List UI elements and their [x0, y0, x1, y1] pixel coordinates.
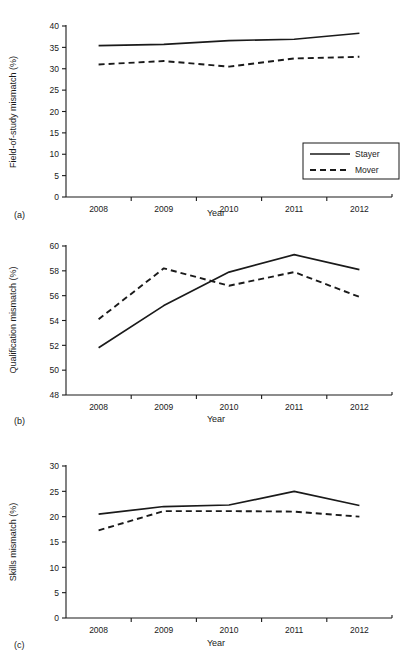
x-tick-label: 2012: [350, 625, 369, 635]
y-tick-label: 10: [50, 149, 60, 159]
y-tick-label: 25: [50, 85, 60, 95]
x-tick-label: 2010: [220, 625, 239, 635]
y-tick-label: 5: [54, 588, 59, 598]
panel-letter: (a): [14, 210, 25, 220]
x-tick-label: 2011: [285, 625, 304, 635]
y-tick-label: 15: [50, 537, 60, 547]
y-tick-label: 58: [50, 266, 60, 276]
y-tick-label: 10: [50, 563, 60, 573]
y-tick-label: 15: [50, 128, 60, 138]
y-tick-label: 25: [50, 487, 60, 497]
x-tick-label: 2010: [220, 402, 239, 412]
panel-letter: (b): [14, 416, 25, 426]
x-tick-label: 2009: [154, 625, 173, 635]
y-tick-label: 54: [50, 316, 60, 326]
y-tick-label: 56: [50, 291, 60, 301]
x-tick-label: 2011: [285, 402, 304, 412]
y-tick-label: 30: [50, 64, 60, 74]
x-tick-label: 2009: [154, 402, 173, 412]
x-tick-label: 2008: [89, 625, 108, 635]
series-line-stayer: [99, 33, 360, 45]
x-tick-label: 2012: [350, 402, 369, 412]
y-axis-title: Field-of-study mismatch (%): [8, 56, 18, 168]
x-tick-label: 2008: [89, 204, 108, 214]
y-tick-label: 52: [50, 341, 60, 351]
multi-panel-line-chart-figure: 051015202530354020082009201020112012Year…: [0, 0, 405, 672]
x-axis-title: Year: [207, 208, 225, 218]
chart-panel-b: 4850525456586020082009201020112012YearQu…: [0, 228, 405, 460]
x-axis-title: Year: [207, 638, 225, 648]
series-line-stayer: [99, 255, 360, 348]
x-tick-label: 2008: [89, 402, 108, 412]
y-tick-label: 50: [50, 365, 60, 375]
chart-panel-c: 05101520253020082009201020112012YearSkil…: [0, 460, 405, 672]
y-tick-label: 20: [50, 107, 60, 117]
panel-a-plot: 051015202530354020082009201020112012Year…: [0, 0, 405, 228]
chart-panel-a: 051015202530354020082009201020112012Year…: [0, 0, 405, 228]
panel-c-plot: 05101520253020082009201020112012YearSkil…: [0, 460, 405, 672]
y-tick-label: 48: [50, 390, 60, 400]
y-tick-label: 40: [50, 21, 60, 31]
panel-letter: (c): [14, 640, 25, 650]
y-tick-label: 0: [54, 192, 59, 202]
series-line-mover: [99, 57, 360, 67]
x-tick-label: 2012: [350, 204, 369, 214]
panel-b-plot: 4850525456586020082009201020112012YearQu…: [0, 228, 405, 460]
y-tick-label: 5: [54, 171, 59, 181]
y-axis-title: Qualification mismatch (%): [8, 266, 18, 373]
x-tick-label: 2011: [285, 204, 304, 214]
series-line-mover: [99, 511, 360, 530]
series-line-mover: [99, 268, 360, 319]
x-axis-title: Year: [207, 414, 225, 424]
legend-box: [303, 143, 399, 179]
x-tick-label: 2009: [154, 204, 173, 214]
y-tick-label: 20: [50, 512, 60, 522]
legend-label-stayer: Stayer: [355, 149, 380, 159]
y-tick-label: 35: [50, 43, 60, 53]
y-tick-label: 60: [50, 241, 60, 251]
legend-label-mover: Mover: [355, 165, 379, 175]
y-tick-label: 0: [54, 613, 59, 623]
y-axis-title: Skills mismatch (%): [8, 503, 18, 582]
y-tick-label: 30: [50, 461, 60, 471]
